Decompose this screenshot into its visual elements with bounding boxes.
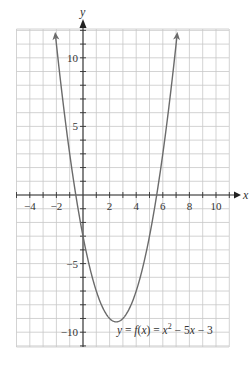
- eq-paren-close: ) =: [147, 324, 163, 337]
- y-tick-label: −5: [66, 258, 78, 270]
- y-tick-label: 5: [73, 120, 79, 132]
- axes: [17, 19, 242, 347]
- x-tick-label: 6: [160, 200, 166, 212]
- grid: [17, 29, 230, 347]
- eq-rest2: − 3: [195, 324, 213, 336]
- parabola-curve: [56, 38, 177, 322]
- y-tick-label: −10: [61, 326, 79, 338]
- y-tick-label: 10: [67, 52, 79, 64]
- x-tick-label: −2: [51, 200, 63, 212]
- curve-arrows: [52, 32, 180, 40]
- equation-label: y = f(x) = x2 − 5x − 3: [116, 322, 213, 337]
- x-axis-label: x: [242, 188, 249, 202]
- parabola-chart: −4−2246810105−5−10 x y y = f(x) = x2 − 5…: [0, 0, 250, 366]
- eq-eq1: =: [122, 324, 134, 336]
- x-tick-label: 10: [211, 200, 223, 212]
- x-tick-label: 2: [107, 200, 113, 212]
- eq-rest1: − 5: [172, 324, 190, 336]
- x-tick-label: 4: [133, 200, 139, 212]
- y-axis-label: y: [79, 5, 86, 19]
- x-tick-label: −4: [24, 200, 36, 212]
- x-tick-label: 8: [187, 200, 193, 212]
